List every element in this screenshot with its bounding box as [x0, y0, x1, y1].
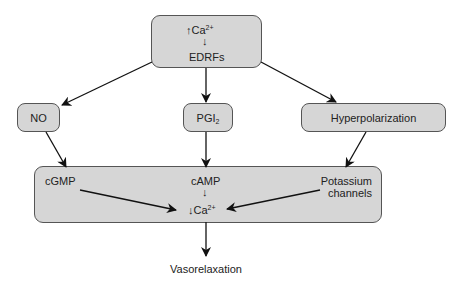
edge-no-to-bottom	[46, 132, 66, 167]
pgi2-label: PGI2	[183, 112, 233, 128]
vasorelaxation-label: Vasorelaxation	[156, 263, 256, 275]
edge-top-to-no	[62, 62, 152, 105]
hyperpolarization-label: Hyperpolarization	[301, 112, 446, 124]
down-arrow-icon: ↓	[202, 35, 208, 47]
edge-top-to-hyperpolarization	[261, 62, 336, 102]
cgmp-label: cGMP	[45, 175, 76, 187]
calcium-decrease-label: ↓Ca2+	[188, 202, 216, 216]
top-calcium-label: ↑Ca2+	[186, 22, 214, 36]
edges	[0, 0, 461, 287]
no-label: NO	[17, 112, 60, 124]
edge-cgmp-to-ca	[80, 190, 176, 210]
edge-potassium-to-ca	[227, 190, 320, 209]
edge-hyperpolarization-to-bottom	[346, 132, 366, 167]
potassium-channels-label: Potassium channels	[320, 175, 372, 199]
edrfs-label: EDRFs	[189, 51, 224, 63]
camp-down-arrow-icon: ↓	[202, 186, 208, 198]
